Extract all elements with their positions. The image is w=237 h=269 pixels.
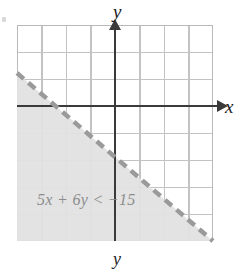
x-axis-label: x [225, 97, 233, 116]
inequality-annotation: 5x + 6y < −15 [37, 191, 136, 209]
y-axis-label: y [113, 2, 121, 21]
bottom-axis-label: y [113, 250, 121, 268]
corner-artifact-mark [2, 17, 6, 22]
